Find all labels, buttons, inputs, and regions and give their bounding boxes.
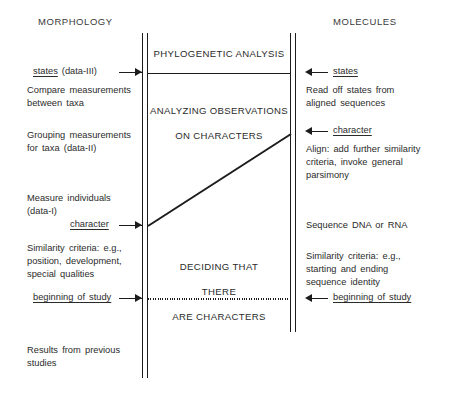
stage-label-phylogenetic-analysis: PHYLOGENETIC ANALYSIS xyxy=(147,48,291,59)
left-rail-inner xyxy=(147,33,148,378)
left-marker-character: character xyxy=(70,219,109,229)
stage-label-there: THERE xyxy=(147,286,291,297)
right-marker-beginning-of-study: beginning of study xyxy=(333,292,411,302)
left-marker-states-suffix: (data-III) xyxy=(58,66,97,76)
right-marker-character-label: character xyxy=(333,125,372,135)
left-marker-states-label: states xyxy=(33,66,58,76)
left-marker-states: states (data-III) xyxy=(33,66,97,76)
right-rail-outer xyxy=(295,33,296,332)
left-note-results-previous-studies: Results from previous studies xyxy=(27,344,143,370)
stage-label-are-characters: ARE CHARACTERS xyxy=(147,311,291,322)
stage-label-deciding-that: DECIDING THAT xyxy=(147,261,291,272)
left-marker-beginning-of-study-label: beginning of study xyxy=(33,292,111,302)
left-note-compare-measurements: Compare measurements between taxa xyxy=(27,84,139,110)
left-note-grouping-measurements: Grouping measurements for taxa (data-II) xyxy=(27,129,139,155)
right-marker-character: character xyxy=(333,125,372,135)
beginning-of-study-dotted-boundary xyxy=(148,298,291,300)
left-marker-beginning-of-study: beginning of study xyxy=(33,292,111,302)
left-rail-outer xyxy=(142,33,143,378)
diagram-canvas: MORPHOLOGY MOLECULES PHYLOGENETIC ANALYS… xyxy=(0,0,460,405)
column-heading-molecules: MOLECULES xyxy=(333,16,397,27)
right-note-align-similarity: Align: add further similarity criteria, … xyxy=(306,143,454,183)
left-marker-character-label: character xyxy=(70,219,109,229)
column-heading-morphology: MORPHOLOGY xyxy=(38,16,113,27)
left-note-measure-individuals: Measure individuals (data-I) xyxy=(27,192,139,218)
right-marker-beginning-of-study-label: beginning of study xyxy=(333,292,411,302)
stage-label-on-characters: ON CHARACTERS xyxy=(147,130,291,141)
left-note-similarity-criteria: Similarity criteria: e.g., position, dev… xyxy=(27,242,143,282)
right-marker-states-label: states xyxy=(333,66,358,76)
channel-top-divider xyxy=(147,73,291,74)
stage-label-analyzing-observations: ANALYZING OBSERVATIONS xyxy=(147,105,291,116)
right-note-sequence-dna-rna: Sequence DNA or RNA xyxy=(306,219,448,232)
right-note-read-off-states: Read off states from aligned sequences xyxy=(306,84,448,110)
right-marker-states: states xyxy=(333,66,358,76)
right-note-similarity-criteria: Similarity criteria: e.g., starting and … xyxy=(306,250,452,290)
